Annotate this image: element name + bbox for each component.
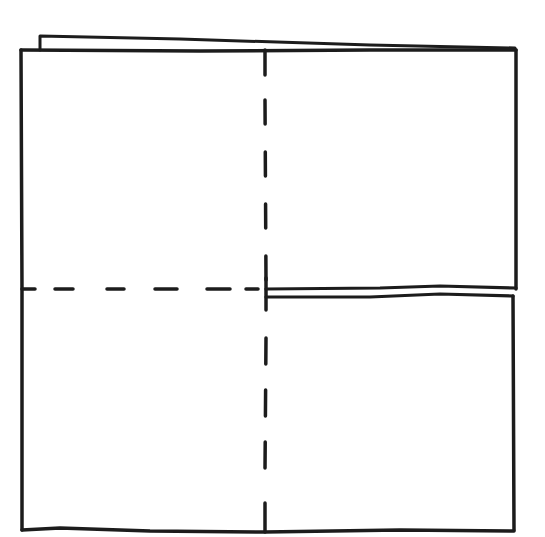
- back-layer-edge: [40, 36, 515, 50]
- right-fold-lower-line: [266, 294, 513, 297]
- fold-diagram: [0, 0, 545, 537]
- vertical-fold-dashed-lower: [265, 338, 266, 470]
- right-fold-upper-line: [266, 286, 516, 289]
- vertical-fold-dashed-upper: [265, 100, 266, 280]
- outer-right-lower-edge: [513, 296, 514, 530]
- outer-bottom-edge: [22, 528, 514, 532]
- outer-top-edge: [21, 50, 516, 51]
